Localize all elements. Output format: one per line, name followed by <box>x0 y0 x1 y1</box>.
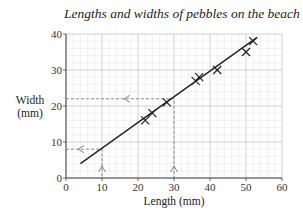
y-tick-label: 30 <box>51 64 63 76</box>
y-axis-label-line2: (mm) <box>17 107 43 120</box>
x-tick-label: 30 <box>169 181 181 193</box>
x-tick-label: 0 <box>63 181 69 193</box>
x-tick-label: 20 <box>133 181 145 193</box>
y-tick-label: 10 <box>51 136 63 148</box>
axes <box>63 34 282 181</box>
y-tick-label: 40 <box>51 28 63 40</box>
y-axis-label-line1: Width <box>16 94 45 106</box>
reading-guides <box>66 95 178 178</box>
y-tick-label: 0 <box>57 172 63 184</box>
tick-labels: 0102030405060010203040 <box>51 28 288 193</box>
x-axis-label: Length (mm) <box>144 195 205 208</box>
x-tick-label: 10 <box>97 181 109 193</box>
x-tick-label: 60 <box>277 181 289 193</box>
x-tick-label: 40 <box>205 181 217 193</box>
y-tick-label: 20 <box>51 100 63 112</box>
scatter-chart: 0102030405060010203040 Length (mm) Width… <box>0 0 303 212</box>
x-tick-label: 50 <box>241 181 253 193</box>
